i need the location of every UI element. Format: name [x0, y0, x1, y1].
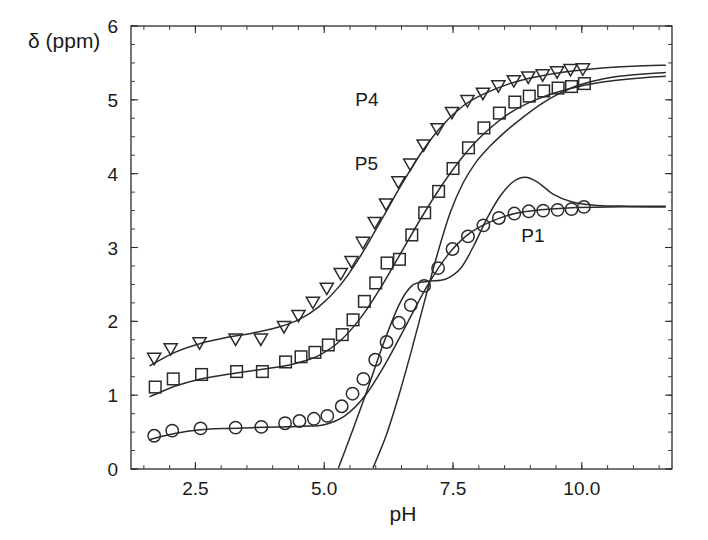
data-point-P5 [478, 122, 490, 134]
data-point-P1 [565, 203, 577, 215]
data-point-P5 [370, 277, 382, 289]
y-tick-label: 0 [107, 459, 118, 480]
series-annotation-P1: P1 [521, 225, 544, 246]
data-point-P1 [166, 424, 178, 436]
y-axis-minor-ticks [131, 26, 672, 469]
chart-canvas: 2.55.07.510.0 0123456 P4P5P1 pH δ (ppm) [0, 0, 708, 540]
data-point-P1 [393, 317, 405, 329]
data-point-P5 [231, 366, 243, 378]
data-point-P1 [357, 373, 369, 385]
series-annotation-P5: P5 [355, 153, 378, 174]
data-point-P1 [321, 410, 333, 422]
data-point-P1 [346, 387, 358, 399]
fit-curve-P4-fit [150, 65, 665, 366]
data-point-P1 [194, 422, 206, 434]
data-point-P1 [380, 336, 392, 348]
data-point-P1 [369, 354, 381, 366]
data-point-P5 [257, 366, 269, 378]
x-axis-title: pH [390, 502, 417, 525]
x-tick-label: 10.0 [563, 478, 600, 499]
plot-frame [131, 26, 672, 469]
data-point-P5 [381, 257, 393, 269]
data-point-P1 [279, 417, 291, 429]
data-point-P4 [254, 334, 267, 345]
fit-curve-P5-fit [150, 76, 665, 396]
y-tick-label: 3 [107, 238, 118, 259]
fit-curve-extra-fit-a [373, 73, 665, 468]
data-point-P4 [164, 344, 177, 355]
data-point-P1 [405, 299, 417, 311]
y-tick-label: 6 [107, 16, 118, 37]
data-point-P4 [306, 297, 319, 308]
data-point-P4 [320, 283, 333, 294]
data-point-P5 [347, 314, 359, 326]
x-tick-label: 7.5 [440, 478, 466, 499]
y-axis-tick-labels: 0123456 [107, 16, 118, 480]
figure-root: 2.55.07.510.0 0123456 P4P5P1 pH δ (ppm) [0, 0, 708, 540]
data-point-P1 [551, 204, 563, 216]
y-axis-title: δ (ppm) [28, 29, 100, 52]
data-point-P1 [462, 230, 474, 242]
x-axis-tick-labels: 2.55.07.510.0 [182, 478, 600, 499]
series-annotations: P4P5P1 [355, 89, 545, 247]
fit-curve-extra-fit-b [339, 177, 666, 467]
data-point-P5 [167, 373, 179, 385]
series-annotation-P4: P4 [355, 89, 379, 110]
y-tick-label: 5 [107, 90, 118, 111]
data-point-P5 [463, 142, 475, 154]
x-tick-label: 2.5 [182, 478, 208, 499]
fit-curves [150, 65, 665, 467]
y-tick-label: 2 [107, 311, 118, 332]
y-tick-label: 1 [107, 385, 118, 406]
data-point-P5 [149, 381, 161, 393]
data-point-P5 [509, 96, 521, 108]
x-axis-minor-ticks [144, 26, 659, 469]
y-axis-major-ticks [131, 26, 672, 469]
data-point-P1 [336, 400, 348, 412]
data-point-P4 [445, 107, 458, 118]
data-point-P1 [148, 430, 160, 442]
x-tick-label: 5.0 [311, 478, 337, 499]
y-tick-label: 4 [107, 164, 118, 185]
data-point-P1 [293, 415, 305, 427]
data-point-P1 [308, 413, 320, 425]
